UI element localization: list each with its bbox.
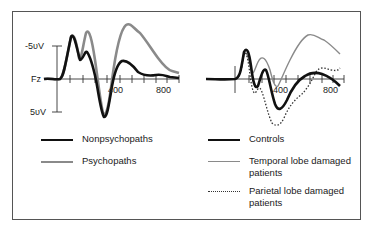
legend-item-psychopaths: Psychopaths (41, 155, 192, 167)
legend-item-temporal-lobe: Temporal lobe damaged patients (208, 155, 359, 179)
left-x-tick-800: 800 (156, 85, 171, 96)
legend-label: Controls (249, 133, 359, 145)
legend-label: Parietal lobe damaged patients (249, 185, 359, 209)
legend-label: Psychopaths (82, 155, 192, 167)
legend-swatch-black-line (208, 139, 240, 141)
left-x-tick-400: 400 (108, 85, 123, 96)
legend-swatch-thin-gray-line (208, 161, 240, 162)
legend-item-parietal-lobe: Parietal lobe damaged patients (208, 185, 359, 209)
legend-item-controls: Controls (208, 133, 359, 145)
legend-swatch-black-line (41, 139, 73, 141)
legend-item-nonpsychopaths: Nonpsychopaths (41, 133, 192, 145)
right-x-tick-800: 800 (323, 85, 338, 96)
right-x-tick-400: 400 (273, 85, 288, 96)
y-tick-label-bottom: 5υV (30, 107, 46, 118)
legend-label: Temporal lobe damaged patients (249, 155, 359, 179)
legend-label: Nonpsychopaths (82, 133, 192, 145)
legend-swatch-dotted-line (208, 191, 240, 192)
legend-swatch-gray-line (41, 161, 73, 163)
y-tick-label-top: -5υV (25, 41, 44, 52)
channel-label-fz: Fz (31, 74, 41, 85)
